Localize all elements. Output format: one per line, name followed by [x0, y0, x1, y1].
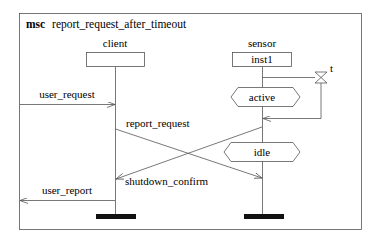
msc-title: msc report_request_after_timeout — [26, 18, 187, 31]
stop-bar-client — [96, 214, 136, 219]
message-label: shutdown_confirm — [125, 175, 209, 187]
msc-keyword: msc — [26, 18, 45, 30]
message-user-report[interactable]: user_report — [20, 184, 115, 201]
message-label: user_report — [42, 184, 92, 196]
message-user-request[interactable]: user_request — [20, 88, 115, 105]
hourglass-icon — [315, 72, 327, 83]
condition-active[interactable]: active — [231, 88, 300, 107]
instance-sensor[interactable]: sensor inst1 — [233, 37, 292, 219]
message-label: report_request — [126, 117, 190, 129]
instance-name-sensor: sensor — [248, 37, 276, 49]
condition-label-active: active — [249, 91, 275, 103]
condition-label-idle: idle — [254, 146, 271, 158]
stop-bar-sensor — [244, 214, 284, 219]
msc-name: report_request_after_timeout — [52, 18, 187, 31]
instance-head-client — [87, 53, 145, 67]
condition-idle[interactable]: idle — [224, 143, 300, 162]
msc-frame — [20, 14, 362, 230]
timer-label: t — [330, 62, 333, 74]
message-label: user_request — [39, 88, 95, 100]
msc-diagram: msc report_request_after_timeout client … — [0, 0, 378, 240]
instance-name-client: client — [103, 37, 127, 49]
instance-label-sensor: inst1 — [251, 53, 272, 65]
